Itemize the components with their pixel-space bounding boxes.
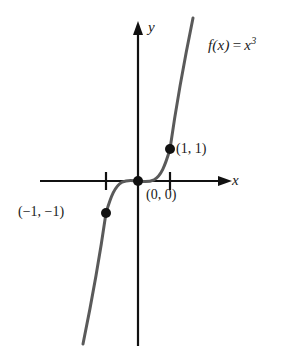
point-label-origin: (0, 0) [146,188,176,202]
point-marker-one-one [165,144,175,154]
cubing-function-figure: y x f(x)=x3 (1, 1) (0, 0) (−1, −1) [0,0,303,361]
point-marker-origin [133,176,143,186]
point-marker-negative-one [101,208,111,218]
graph-canvas [0,0,303,361]
x-axis-label: x [232,173,239,188]
y-axis-label: y [148,20,155,35]
point-label-one-one: (1, 1) [176,142,206,156]
x-axis-arrowhead [218,176,232,186]
function-equation-label: f(x)=x3 [208,36,256,53]
function-exponent: 3 [251,35,256,46]
y-axis-arrowhead [133,21,143,35]
equals-sign: = [230,37,245,53]
point-label-negative-one: (−1, −1) [18,205,64,219]
function-base-text: f(x) [208,37,230,53]
